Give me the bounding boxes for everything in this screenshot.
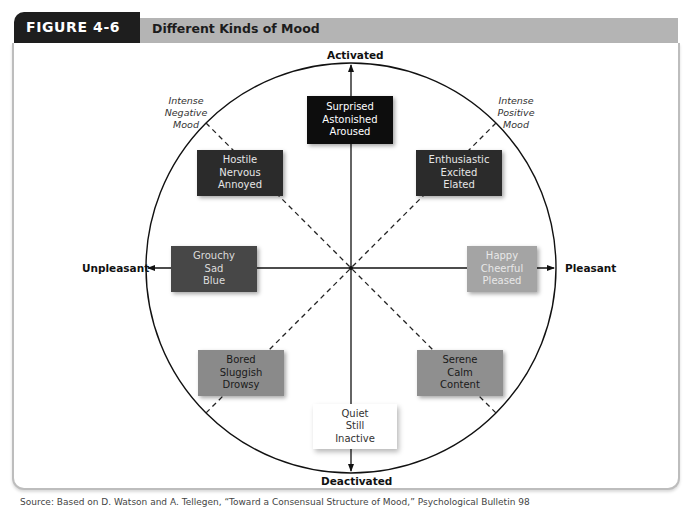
axis-label-deactivated: Deactivated	[321, 475, 392, 487]
quadrant-label-intense-negative: Intense Negative Mood	[151, 95, 221, 131]
axis-label-activated: Activated	[327, 49, 384, 61]
axis-label-unpleasant: Unpleasant	[82, 262, 149, 274]
mood-box-activated: Surprised Astonished Aroused	[307, 96, 393, 144]
mood-box-high-negative: Hostile Nervous Annoyed	[197, 150, 283, 196]
origin-dot	[349, 266, 353, 270]
figure-source-caption: Source: Based on D. Watson and A. Telleg…	[20, 497, 530, 507]
mood-box-unpleasant: Grouchy Sad Blue	[171, 246, 257, 292]
axis-label-pleasant: Pleasant	[565, 262, 616, 274]
mood-box-deactivated: Quiet Still Inactive	[313, 404, 397, 449]
mood-box-high-positive: Enthusiastic Excited Elated	[416, 150, 502, 196]
mood-box-low-negative: Bored Sluggish Drowsy	[198, 350, 284, 396]
mood-box-low-positive: Serene Calm Content	[417, 350, 503, 396]
quadrant-label-intense-positive: Intense Positive Mood	[481, 95, 551, 131]
mood-box-pleasant: Happy Cheerful Pleased	[467, 246, 537, 292]
